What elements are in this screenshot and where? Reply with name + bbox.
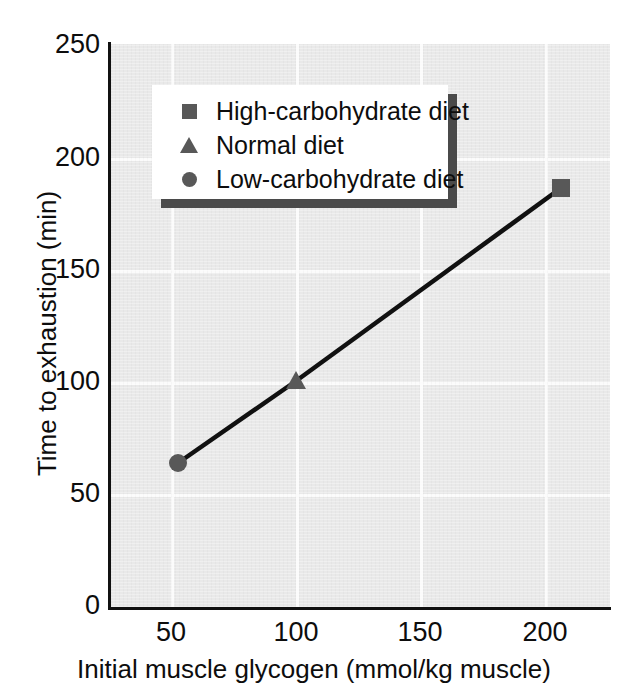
x-tick-150: 150 (370, 617, 470, 648)
x-tick-50: 50 (121, 617, 221, 648)
legend-item-normal: Normal diet (152, 128, 448, 162)
triangle-marker-icon (174, 137, 204, 153)
gridline-y-100 (111, 382, 610, 385)
legend-label-normal: Normal diet (216, 131, 344, 160)
chart-figure: 250 200 150 100 50 0 50 100 150 200 Time… (0, 0, 628, 694)
y-axis-line (108, 42, 111, 610)
gridline-x-200 (545, 44, 548, 607)
x-axis-title: Initial muscle glycogen (mmol/kg muscle) (0, 654, 628, 685)
chart-legend: High-carbohydrate diet Normal diet Low-c… (152, 85, 448, 199)
circle-marker-icon (174, 172, 204, 187)
gridline-y-50 (111, 494, 610, 497)
legend-item-low-carbohydrate: Low-carbohydrate diet (152, 162, 448, 196)
x-tick-200: 200 (495, 617, 595, 648)
legend-item-high-carbohydrate: High-carbohydrate diet (152, 94, 448, 128)
gridline-y-150 (111, 270, 610, 273)
x-tick-100: 100 (246, 617, 346, 648)
y-axis-title: Time to exhaustion (min) (32, 144, 63, 524)
legend-label-high-carbohydrate: High-carbohydrate diet (216, 97, 469, 126)
square-marker-icon (174, 104, 204, 119)
legend-label-low-carbohydrate: Low-carbohydrate diet (216, 165, 463, 194)
x-axis-line (108, 607, 611, 610)
y-tick-0: 0 (10, 590, 100, 621)
y-tick-250: 250 (10, 29, 100, 60)
